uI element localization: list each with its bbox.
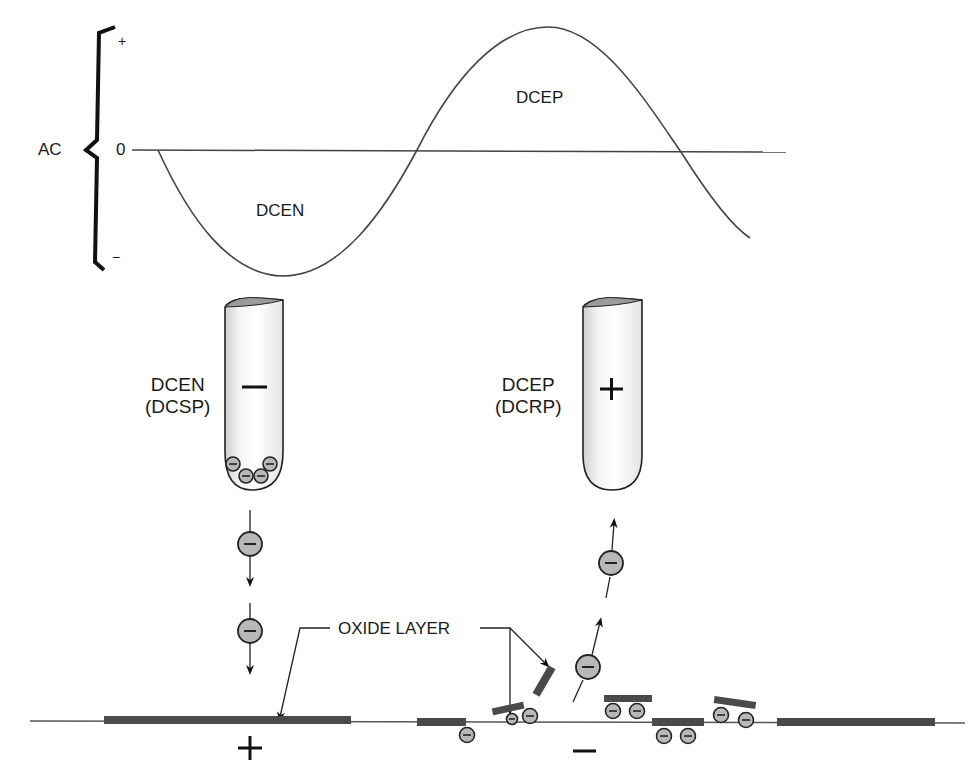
electrode-dcen-label: DCEN (DCSP): [145, 374, 210, 418]
electrode-dcen-line1: DCEN: [145, 374, 210, 396]
ac-brace: [86, 27, 115, 270]
electrode-dcep: [583, 297, 642, 490]
axis-minus-label: −: [112, 250, 120, 264]
oxide-leader-lines: [280, 628, 546, 717]
ac-label: AC: [38, 141, 62, 158]
dcep-wave-label: DCEP: [516, 89, 563, 106]
oxide-layer-label: OXIDE LAYER: [338, 620, 450, 637]
dcen-wave-label: DCEN: [256, 202, 304, 219]
electron-flow-up: [573, 523, 623, 702]
electrode-dcep-label: DCEP (DCRP): [495, 374, 562, 418]
axis-plus-label: +: [118, 34, 126, 48]
axis-zero-label: 0: [116, 141, 125, 158]
zero-axis: [132, 150, 786, 152]
electrode-dcep-line2: (DCRP): [495, 396, 562, 418]
workpiece-plus-symbol: [238, 736, 262, 760]
electrode-dcep-line1: DCEP: [495, 374, 562, 396]
electrode-dcen: [225, 297, 283, 490]
oxide-flake: [533, 665, 556, 697]
electron-flow-down: [238, 510, 262, 670]
electrode-dcen-line2: (DCSP): [145, 396, 210, 418]
